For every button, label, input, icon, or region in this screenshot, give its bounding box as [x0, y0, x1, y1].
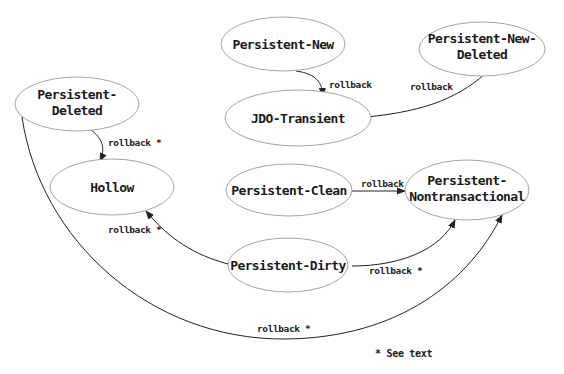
node-label-line-2: Deleted: [457, 47, 508, 62]
edge-deleted-to-hollow: [91, 130, 103, 161]
node-persistent-clean: Persistent-Clean: [226, 164, 352, 216]
edge-label-deleted-to-nontransactional: rollback *: [257, 323, 311, 334]
node-label-line-2: Deleted: [52, 103, 103, 118]
node-label: JDO-Transient: [251, 111, 345, 126]
node-label: Persistent-Dirty: [230, 258, 346, 273]
edge-label-new-deleted-to-transient: rollback: [410, 81, 453, 92]
node-label-line-1: Persistent-: [427, 173, 507, 188]
node-label-line-2: Nontransactional: [409, 189, 525, 204]
edge-label-deleted-to-hollow: rollback *: [108, 137, 162, 148]
node-persistent-nontransactional: Persistent- Nontransactional: [405, 160, 529, 220]
node-hollow: Hollow: [50, 159, 174, 215]
edge-deleted-to-nontransactional: [22, 117, 502, 339]
edge-label-dirty-to-nontransactional: rollback *: [369, 265, 423, 276]
node-jdo-transient: JDO-Transient: [225, 90, 371, 146]
edge-label-dirty-to-hollow: rollback *: [108, 224, 162, 235]
footnote: * See text: [375, 348, 432, 359]
edge-label-clean-to-nontransactional: rollback: [361, 178, 404, 189]
node-persistent-new: Persistent-New: [221, 17, 345, 71]
node-label: Hollow: [90, 180, 134, 195]
node-label-line-1: Persistent-New-: [428, 31, 536, 46]
state-diagram: rollback rollback rollback * rollback ro…: [0, 0, 564, 374]
node-label: Persistent-New: [232, 37, 334, 52]
node-label-line-1: Persistent-: [37, 87, 117, 102]
edge-dirty-to-nontransactional: [352, 220, 455, 266]
edge-label-new-to-transient: rollback: [329, 79, 372, 90]
node-persistent-deleted: Persistent- Deleted: [15, 77, 139, 131]
node-label: Persistent-Clean: [231, 183, 347, 198]
node-persistent-new-deleted: Persistent-New- Deleted: [419, 22, 545, 76]
edge-dirty-to-hollow: [146, 211, 228, 264]
node-persistent-dirty: Persistent-Dirty: [228, 238, 348, 292]
